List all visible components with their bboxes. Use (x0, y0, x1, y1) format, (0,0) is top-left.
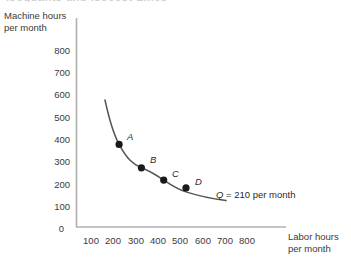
x-tick-200: 200 (101, 236, 125, 246)
x-tick-700: 700 (213, 236, 237, 246)
y-tick-500: 500 (40, 113, 70, 123)
data-point-a (116, 141, 123, 148)
x-axis-title: Labor hours per month (288, 231, 350, 254)
x-axis-title-text: Labor hours per month (288, 231, 339, 254)
x-tick-800: 800 (235, 236, 259, 246)
y-tick-700: 700 (40, 68, 70, 78)
y-tick-600: 600 (40, 90, 70, 100)
data-point-d (182, 184, 189, 191)
point-label-b: B (150, 155, 156, 165)
isoquant-curve (105, 100, 226, 201)
point-label-a: A (127, 132, 133, 142)
x-tick-400: 400 (146, 236, 170, 246)
isoquant-annotation: Q = 210 per month (216, 190, 295, 200)
point-label-d: D (195, 177, 202, 187)
y-axis-title: Machine hours per month (4, 10, 76, 33)
isoquant-annotation-text: = 210 per month (223, 189, 295, 200)
data-point-c (160, 177, 167, 184)
figure-title-sliver: Isoquants and Isocost Lines (6, 0, 216, 2)
x-tick-500: 500 (168, 236, 192, 246)
y-tick-300: 300 (40, 157, 70, 167)
y-tick-800: 800 (40, 46, 70, 56)
x-tick-300: 300 (124, 236, 148, 246)
y-tick-100: 100 (40, 202, 70, 212)
x-tick-100: 100 (79, 236, 103, 246)
point-label-c: C (172, 169, 179, 179)
y-axis-title-text: Machine hours per month (4, 10, 66, 33)
figure-isoquant-chart: Isoquants and Isocost Lines Machine hour… (0, 0, 351, 264)
data-point-b (138, 164, 145, 171)
y-tick-400: 400 (40, 135, 70, 145)
x-tick-600: 600 (191, 236, 215, 246)
y-tick-0: 0 (40, 224, 64, 234)
y-tick-200: 200 (40, 180, 70, 190)
